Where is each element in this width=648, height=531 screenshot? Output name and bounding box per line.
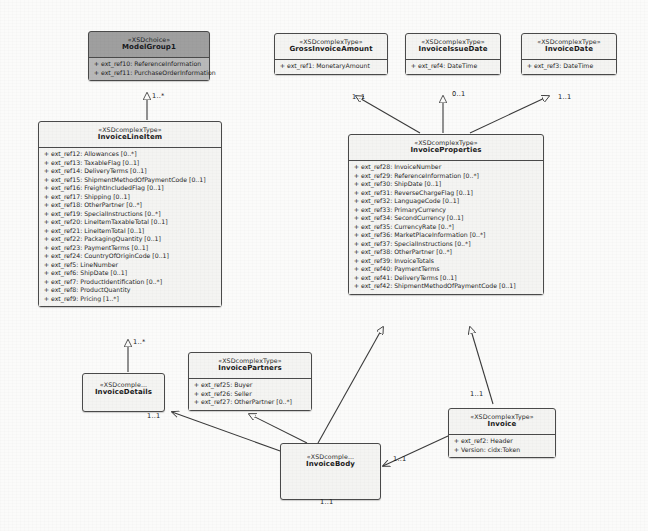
visibility-public-icon: + xyxy=(42,278,51,287)
attribute-text: ext_ref30: ShipDate [0..1] xyxy=(361,180,441,188)
visibility-public-icon: + xyxy=(42,286,51,295)
connector-details-to-body xyxy=(172,412,283,452)
visibility-public-icon: + xyxy=(42,252,51,261)
stereotype-label: «XSDcomple... xyxy=(285,453,376,460)
stereotype-label: «XSDcomplexType» xyxy=(526,38,612,45)
attribute-text: ext_ref37: SpecialInstructions [0..*] xyxy=(361,240,471,248)
node-model-group1[interactable]: «XSDchoice» ModelGroup1 +ext_ref10: Refe… xyxy=(88,31,210,81)
attribute-text: ext_ref25: Buyer xyxy=(201,381,252,389)
attribute-text: ext_ref39: InvoiceTotals xyxy=(361,257,434,265)
attribute-row: +Version: cidx:Token xyxy=(452,446,553,455)
attribute-text: ext_ref16: FreightIncludedFlag [0..1] xyxy=(51,184,164,192)
visibility-public-icon: + xyxy=(352,257,361,266)
class-name: InvoiceLineItem xyxy=(43,133,217,141)
class-name: InvoiceBody xyxy=(285,460,376,468)
node-gross-invoice-amount[interactable]: «XSDcomplexType» GrossInvoiceAmount +ext… xyxy=(274,33,388,75)
visibility-public-icon: + xyxy=(352,206,361,215)
visibility-public-icon: + xyxy=(452,437,461,446)
visibility-public-icon: + xyxy=(42,210,51,219)
diagram-canvas: «XSDchoice» ModelGroup1 +ext_ref10: Refe… xyxy=(0,0,648,531)
attribute-text: ext_ref34: SecondCurrency [0..1] xyxy=(361,214,463,222)
attribute-row: +ext_ref26: Seller xyxy=(192,390,309,399)
multiplicity-date-properties: 1..1 xyxy=(558,93,571,101)
attribute-text: ext_ref5: LineNumber xyxy=(51,261,118,269)
attribute-row: +ext_ref5: LineNumber xyxy=(42,261,219,270)
attribute-list: +ext_ref4: DateTime xyxy=(406,60,500,74)
attribute-text: ext_ref7: ProductIdentification [0..*] xyxy=(51,278,162,286)
attribute-row: +ext_ref17: Shipping [0..1] xyxy=(42,193,219,202)
node-header: «XSDcomplexType» InvoiceLineItem xyxy=(39,122,221,148)
visibility-public-icon: + xyxy=(352,180,361,189)
attribute-text: ext_ref41: DeliveryTerms [0..1] xyxy=(361,274,457,282)
visibility-public-icon: + xyxy=(352,265,361,274)
attribute-text: ext_ref28: InvoiceNumber xyxy=(361,163,441,171)
visibility-public-icon: + xyxy=(42,269,51,278)
attribute-row: +ext_ref1: MonetaryAmount xyxy=(278,62,385,71)
multiplicity-gross-properties: 1..1 xyxy=(352,93,365,101)
visibility-public-icon: + xyxy=(352,274,361,283)
node-invoice[interactable]: «XSDcomplexType» Invoice +ext_ref2: Head… xyxy=(448,408,556,458)
node-invoice-properties[interactable]: «XSDcomplexType» InvoiceProperties +ext_… xyxy=(348,134,544,295)
attribute-row: +ext_ref16: FreightIncludedFlag [0..1] xyxy=(42,184,219,193)
node-invoice-issue-date[interactable]: «XSDcomplexType» InvoiceIssueDate +ext_r… xyxy=(405,33,501,75)
attribute-text: ext_ref17: Shipping [0..1] xyxy=(51,193,130,201)
visibility-public-icon: + xyxy=(42,150,51,159)
node-header: «XSDchoice» ModelGroup1 xyxy=(89,32,209,58)
attribute-text: ext_ref10: ReferenceInformation xyxy=(101,60,201,68)
attribute-list: +ext_ref25: Buyer +ext_ref26: Seller +ex… xyxy=(189,379,311,410)
node-header: «XSDcomplexType» InvoicePartners xyxy=(189,353,311,379)
node-header: «XSDcomplexType» Invoice xyxy=(449,409,555,435)
attribute-row: +ext_ref15: ShipmentMethodOfPaymentCode … xyxy=(42,176,219,185)
attribute-text: ext_ref8: ProductQuantity xyxy=(51,286,131,294)
attribute-row: +ext_ref32: LanguageCode [0..1] xyxy=(352,197,541,206)
visibility-public-icon: + xyxy=(92,60,101,69)
attribute-list: +ext_ref3: DateTime xyxy=(522,60,616,74)
attribute-text: ext_ref13: TaxableFlag [0..1] xyxy=(51,159,139,167)
attribute-text: ext_ref14: DeliveryTerms [0..1] xyxy=(51,167,147,175)
visibility-public-icon: + xyxy=(92,69,101,78)
class-name: InvoiceDetails xyxy=(87,388,160,396)
attribute-row: +ext_ref22: PackagingQuantity [0..1] xyxy=(42,235,219,244)
node-invoice-date[interactable]: «XSDcomplexType» InvoiceDate +ext_ref3: … xyxy=(521,33,617,75)
attribute-text: ext_ref42: ShipmentMethodOfPaymentCode [… xyxy=(361,282,516,290)
attribute-text: ext_ref38: OtherPartner [0..*] xyxy=(361,248,452,256)
attribute-row: +ext_ref35: CurrencyRate [0..*] xyxy=(352,223,541,232)
stereotype-label: «XSDchoice» xyxy=(93,36,205,43)
multiplicity-properties-invoice: 1..1 xyxy=(470,390,483,398)
node-invoice-line-item[interactable]: «XSDcomplexType» InvoiceLineItem +ext_re… xyxy=(38,121,222,307)
visibility-public-icon: + xyxy=(352,248,361,257)
attribute-text: ext_ref4: DateTime xyxy=(418,62,477,70)
node-header: «XSDcomplexType» GrossInvoiceAmount xyxy=(275,34,387,60)
attribute-row: +ext_ref2: Header xyxy=(452,437,553,446)
attribute-row: +ext_ref14: DeliveryTerms [0..1] xyxy=(42,167,219,176)
attribute-text: ext_ref20: LineItemTaxableTotal [0..1] xyxy=(51,218,168,226)
visibility-public-icon: + xyxy=(525,62,534,71)
visibility-public-icon: + xyxy=(352,172,361,181)
attribute-row: +ext_ref25: Buyer xyxy=(192,381,309,390)
attribute-text: ext_ref40: PaymentTerms xyxy=(361,265,440,273)
attribute-text: ext_ref27: OtherPartner [0..*] xyxy=(201,398,292,406)
visibility-public-icon: + xyxy=(42,184,51,193)
attribute-row: +ext_ref36: MarketPlaceInformation [0..*… xyxy=(352,231,541,240)
class-name: InvoiceProperties xyxy=(353,146,539,154)
attribute-row: +ext_ref3: DateTime xyxy=(525,62,614,71)
node-header: «XSDcomple... InvoiceDetails xyxy=(83,374,164,402)
attribute-text: ext_ref32: LanguageCode [0..1] xyxy=(361,197,459,205)
multiplicity-invoice-body: 1..1 xyxy=(393,455,406,463)
attribute-text: ext_ref11: PurchaseOrderInformation xyxy=(101,69,216,77)
connector-date-to-properties xyxy=(470,96,549,133)
visibility-public-icon: + xyxy=(452,446,461,455)
node-invoice-body[interactable]: «XSDcomple... InvoiceBody xyxy=(280,443,381,500)
connector-partners-to-body xyxy=(249,414,307,443)
multiplicity-lineitem-details: 1..* xyxy=(133,338,145,346)
node-header: «XSDcomplexType» InvoiceProperties xyxy=(349,135,543,161)
stereotype-label: «XSDcomplexType» xyxy=(193,357,307,364)
attribute-text: ext_ref18: OtherPartner [0..*] xyxy=(51,201,142,209)
node-invoice-details[interactable]: «XSDcomple... InvoiceDetails xyxy=(82,373,165,412)
visibility-public-icon: + xyxy=(192,390,201,399)
visibility-public-icon: + xyxy=(42,235,51,244)
attribute-text: ext_ref23: PaymentTerms [0..1] xyxy=(51,244,148,252)
node-invoice-partners[interactable]: «XSDcomplexType» InvoicePartners +ext_re… xyxy=(188,352,312,411)
visibility-public-icon: + xyxy=(192,398,201,407)
attribute-text: Version: cidx:Token xyxy=(461,446,520,454)
